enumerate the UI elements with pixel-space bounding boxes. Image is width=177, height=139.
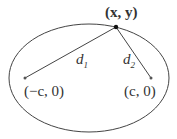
focus-right-label: (c, 0) xyxy=(124,84,156,99)
focus-left-dot xyxy=(24,77,27,80)
focus-right-dot xyxy=(150,77,153,80)
distance-line-d1 xyxy=(25,27,116,78)
ellipse xyxy=(9,24,169,132)
point-xy-dot xyxy=(114,25,118,29)
d2-label: d2 xyxy=(123,52,135,70)
ellipse-figure xyxy=(0,0,177,139)
focus-left-label: (−c, 0) xyxy=(24,84,64,99)
d1-label: d1 xyxy=(76,52,88,70)
point-label: (x, y) xyxy=(105,5,138,20)
d1-letter: d xyxy=(76,51,84,67)
d2-subscript: 2 xyxy=(131,60,136,70)
ellipse-diagram: (x, y) d1 d2 (−c, 0) (c, 0) xyxy=(0,0,177,139)
d2-letter: d xyxy=(123,51,131,67)
d1-subscript: 1 xyxy=(84,60,89,70)
